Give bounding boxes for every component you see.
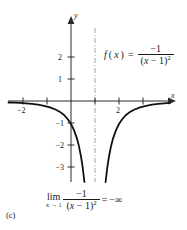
formula-variable: x <box>114 49 118 60</box>
limit-den-minus: − <box>77 200 83 211</box>
y-tick-label-neg1: −1 <box>55 119 64 128</box>
y-tick-label-neg3: −3 <box>55 163 64 172</box>
limit-fraction: −1 (x − 1)2 <box>63 188 99 211</box>
formula-den-exponent: 2 <box>167 54 170 61</box>
limit-den-variable: x <box>70 200 74 211</box>
figure-panel: x y −2 2 1 2 −1 −2 −3 f(x) = −1 (x − 1)2… <box>0 0 187 230</box>
limit-den-exponent: 2 <box>93 199 96 206</box>
x-tick-label-neg2: −2 <box>17 106 26 115</box>
limit-subscript: x → 1 <box>46 202 61 208</box>
limit-operator: lim x → 1 <box>46 192 61 208</box>
formula-den-variable: x <box>144 55 148 66</box>
formula-fraction: −1 (x − 1)2 <box>138 43 174 66</box>
limit-expression: lim x → 1 −1 (x − 1)2 = −∞ <box>46 188 122 211</box>
y-axis-label: y <box>73 11 78 20</box>
y-tick-label-neg2: −2 <box>55 141 64 150</box>
formula-den-minus: − <box>151 55 157 66</box>
limit-numerator: −1 <box>63 188 99 199</box>
panel-caption-label: (c) <box>6 210 15 220</box>
y-tick-label-1: 1 <box>58 75 62 84</box>
limit-equals-sign: = <box>102 194 108 205</box>
limit-denominator: (x − 1)2 <box>63 199 99 211</box>
formula-equals-sign: = <box>128 49 134 60</box>
formula-denominator: (x − 1)2 <box>138 54 174 66</box>
x-tick-label-2: 2 <box>116 106 120 115</box>
formula-function-name: f <box>104 49 107 60</box>
function-formula-annotation: f(x) = −1 (x − 1)2 <box>104 43 174 66</box>
y-tick-label-2: 2 <box>58 53 62 62</box>
x-axis-label: x <box>170 91 175 100</box>
formula-numerator: −1 <box>138 43 174 54</box>
limit-result: −∞ <box>109 194 122 205</box>
